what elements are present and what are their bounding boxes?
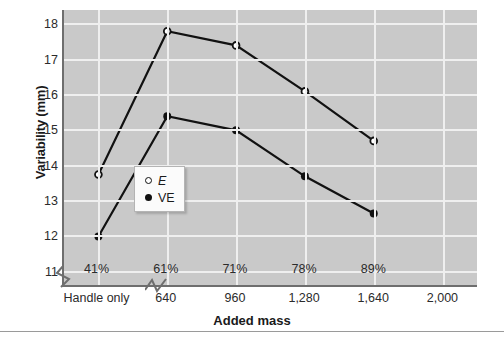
chart-figure: Variability (mm) 1112131415161718 41%61%… — [0, 0, 504, 341]
gridline-horizontal — [64, 129, 477, 131]
gridline-horizontal — [64, 23, 477, 25]
gridline-horizontal — [64, 271, 477, 273]
y-tick-label: 18 — [28, 17, 58, 31]
y-tick-label: 14 — [28, 159, 58, 173]
legend-label-ve: VE — [158, 191, 175, 205]
x-tick-percent-label: 61% — [153, 262, 178, 276]
x-tick-mass-label: Handle only — [64, 291, 130, 305]
plot-area — [62, 10, 477, 286]
gridline-horizontal — [64, 94, 477, 96]
x-tick-mass-label: 2,000 — [427, 291, 458, 305]
gridline-vertical — [374, 10, 376, 286]
y-tick-label: 12 — [28, 229, 58, 243]
legend-item-e: E — [142, 172, 175, 189]
x-tick-percent-label: 41% — [84, 262, 109, 276]
gridline-vertical — [236, 10, 238, 286]
series-lines — [64, 10, 477, 286]
x-tick-percent-label: 71% — [222, 262, 247, 276]
x-tick-percent-label: 78% — [292, 262, 317, 276]
x-tick-percent-label: 89% — [361, 262, 386, 276]
bottom-divider — [0, 331, 504, 332]
gridline-vertical — [98, 10, 100, 286]
x-tick-mass-label: 1,640 — [358, 291, 389, 305]
x-tick-mass-label: 640 — [155, 291, 176, 305]
y-tick-label: 13 — [28, 194, 58, 208]
x-tick-mass-label: 1,280 — [288, 291, 319, 305]
y-tick-label: 17 — [28, 53, 58, 67]
legend-label-e: E — [158, 174, 166, 188]
x-tick-mass-label: 960 — [224, 291, 245, 305]
x-axis-title: Added mass — [0, 313, 504, 328]
gridline-vertical — [305, 10, 307, 286]
gridline-horizontal — [64, 59, 477, 61]
legend-item-ve: VE — [142, 189, 175, 206]
y-tick-label: 15 — [28, 123, 58, 137]
x-axis-line — [62, 285, 477, 287]
open-circle-icon — [142, 177, 155, 184]
filled-circle-icon — [142, 194, 155, 201]
gridline-vertical — [167, 10, 169, 286]
gridline-vertical — [443, 10, 445, 286]
y-axis-tick-labels: 1112131415161718 — [28, 0, 58, 341]
y-tick-label: 16 — [28, 88, 58, 102]
gridline-horizontal — [64, 200, 477, 202]
chart-legend: E VE — [134, 166, 185, 212]
gridline-horizontal — [64, 165, 477, 167]
gridline-horizontal — [64, 235, 477, 237]
